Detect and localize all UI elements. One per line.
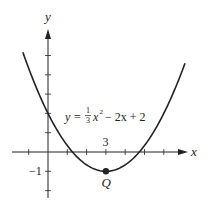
- x-tick-label-3: 3: [102, 135, 108, 149]
- x-axis-arrow-icon: [178, 149, 188, 155]
- x-axis-label: x: [190, 144, 197, 159]
- equation-exponent: 2: [100, 108, 104, 116]
- y-axis-label: y: [43, 9, 51, 24]
- equation-frac-den: 3: [86, 116, 90, 125]
- equation-rest: − 2x + 2: [105, 110, 146, 124]
- point-label-q: Q: [101, 175, 111, 190]
- equation-y: y: [64, 110, 71, 124]
- y-tick-label-minus-1: −1: [29, 164, 42, 178]
- y-axis-arrow-icon: [45, 29, 51, 39]
- equation-x: x: [92, 110, 99, 124]
- equation-equals: =: [74, 110, 81, 124]
- parabola-curve: [23, 52, 185, 171]
- equation-frac-num: 1: [86, 106, 90, 115]
- parabola-plot: Q x y 3 −1 y = 1 3 x 2 − 2x + 2: [0, 0, 209, 207]
- point-q: [103, 168, 109, 174]
- equation-label: y = 1 3 x 2 − 2x + 2: [64, 106, 146, 125]
